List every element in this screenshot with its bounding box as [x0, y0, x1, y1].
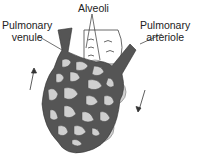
label-arteriole-line2: arteriole — [140, 31, 190, 43]
label-venule-line2: venule — [2, 31, 52, 43]
label-venule-line1: Pulmonary — [2, 19, 52, 31]
flow-arrow-up — [30, 68, 37, 90]
label-alveoli: Alveoli — [78, 2, 109, 14]
label-arteriole-line1: Pulmonary — [140, 19, 190, 31]
flow-arrow-down — [136, 90, 145, 112]
label-pulmonary-venule: Pulmonary venule — [2, 19, 52, 43]
label-pulmonary-arteriole: Pulmonary arteriole — [140, 19, 190, 43]
alveolus-sac — [84, 30, 122, 64]
